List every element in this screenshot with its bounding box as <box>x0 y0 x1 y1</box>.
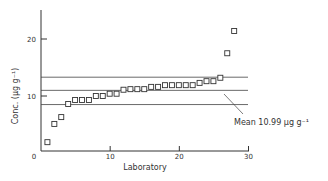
data-point <box>59 115 64 120</box>
data-point <box>114 91 119 96</box>
annotation-leader-line <box>224 94 243 114</box>
data-point <box>128 87 133 92</box>
data-point <box>45 140 50 145</box>
data-point <box>197 80 202 85</box>
data-point <box>218 75 223 80</box>
data-point <box>156 84 161 89</box>
data-point <box>142 87 147 92</box>
data-point <box>204 79 209 84</box>
ticks <box>41 39 249 151</box>
data-point <box>135 87 140 92</box>
data-points <box>45 29 237 145</box>
y-tick-label: 20 <box>27 36 36 44</box>
data-point <box>183 83 188 88</box>
data-point <box>73 97 78 102</box>
x-tick-label: 30 <box>244 153 253 161</box>
mean-annotation: Mean 10.99 µg g⁻¹ <box>234 118 309 127</box>
tick-labels: 01020301020 <box>27 36 253 162</box>
data-point <box>86 97 91 102</box>
x-tick-label: 10 <box>106 153 115 161</box>
data-point <box>107 91 112 96</box>
data-point <box>52 121 57 126</box>
data-point <box>100 94 105 99</box>
data-point <box>190 83 195 88</box>
data-point <box>66 101 71 106</box>
y-tick-label: 10 <box>27 93 36 101</box>
data-point <box>176 83 181 88</box>
data-point <box>93 94 98 99</box>
scatter-chart: 01020301020 Mean 10.99 µg g⁻¹ Laboratory… <box>0 0 328 181</box>
data-point <box>211 79 216 84</box>
data-point <box>169 83 174 88</box>
y-axis-label: Conc. (µg g⁻¹) <box>11 68 20 125</box>
data-point <box>121 87 126 92</box>
data-point <box>80 97 85 102</box>
data-point <box>149 84 154 89</box>
x-tick-label: 20 <box>175 153 184 161</box>
data-point <box>225 51 230 56</box>
x-axis-label: Laboratory <box>123 163 167 172</box>
x-tick-label: 0 <box>32 153 36 161</box>
data-point <box>163 83 168 88</box>
data-point <box>232 29 237 34</box>
